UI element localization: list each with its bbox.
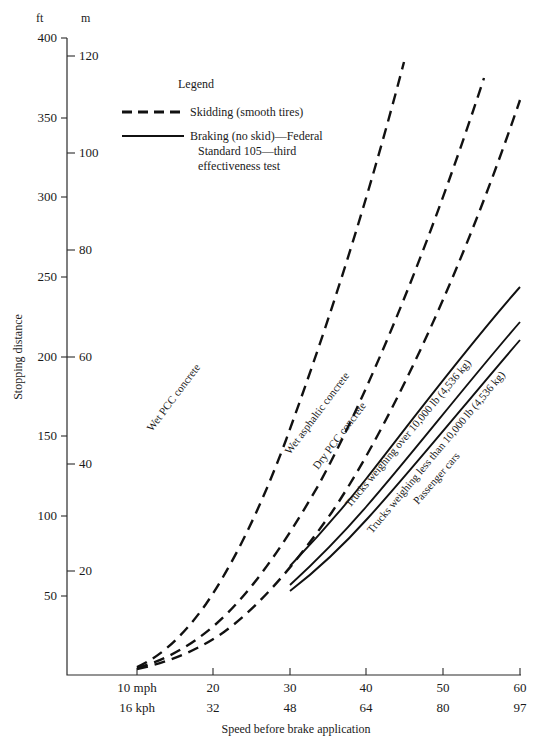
x-tick-mph-20: 20 — [207, 680, 220, 695]
curve-label-wet-pcc-concrete: Wet PCC concrete — [144, 361, 202, 433]
y-tick-m-60: 60 — [79, 349, 92, 364]
legend-label-braking-1: Braking (no skid)—Federal — [190, 129, 323, 143]
x-tick-kph-97: 97 — [514, 700, 528, 715]
x-tick-kph-32: 32 — [207, 700, 220, 715]
y-tick-m-40: 40 — [79, 456, 92, 471]
legend-title: Legend — [178, 77, 214, 91]
x-tick-kph-16: 16 kph — [119, 700, 155, 715]
y-tick-ft-50: 50 — [44, 588, 57, 603]
x-tick-mph-50: 50 — [437, 680, 450, 695]
y-ticks-ft: 400 350 300 250 200 150 100 50 — [38, 30, 68, 603]
y-tick-ft-100: 100 — [38, 508, 58, 523]
legend-label-braking-3: effectiveness test — [198, 159, 281, 173]
x-tick-mph-40: 40 — [360, 680, 373, 695]
y-axis-unit-ft: ft — [36, 11, 44, 25]
y-tick-ft-400: 400 — [38, 30, 58, 45]
y-tick-ft-300: 300 — [38, 189, 58, 204]
x-tick-mph-10: 10 mph — [117, 680, 157, 695]
x-tick-kph-80: 80 — [437, 700, 450, 715]
x-ticks — [137, 668, 520, 675]
legend: Legend Skidding (smooth tires) Braking (… — [122, 77, 323, 173]
y-axis-unit-m: m — [81, 11, 91, 25]
y-tick-m-120: 120 — [79, 48, 99, 63]
chart-figure: ft m 400 350 300 250 200 150 100 50 120 … — [0, 0, 544, 739]
y-tick-m-80: 80 — [79, 242, 92, 257]
x-tick-kph-64: 64 — [360, 700, 374, 715]
y-tick-ft-150: 150 — [38, 428, 58, 443]
curve-dry-pcc-concrete — [137, 100, 520, 669]
legend-label-braking-2: Standard 105—third — [198, 144, 296, 158]
x-axis-title: Speed before brake application — [222, 722, 371, 736]
chart-svg: ft m 400 350 300 250 200 150 100 50 120 … — [0, 0, 544, 739]
x-tick-kph-48: 48 — [284, 700, 297, 715]
legend-label-skidding: Skidding (smooth tires) — [190, 105, 303, 119]
y-tick-m-100: 100 — [79, 145, 99, 160]
y-tick-ft-200: 200 — [38, 349, 58, 364]
curve-labels: Wet PCC concrete Wet asphaltic concrete … — [144, 357, 508, 536]
y-tick-ft-350: 350 — [38, 110, 58, 125]
curve-passenger-cars — [290, 340, 520, 591]
x-tick-mph-30: 30 — [284, 680, 297, 695]
y-tick-ft-250: 250 — [38, 269, 58, 284]
x-tick-labels-mph: 10 mph 20 30 40 50 60 — [117, 680, 526, 695]
y-tick-m-20: 20 — [79, 563, 92, 578]
x-tick-mph-60: 60 — [514, 680, 527, 695]
y-ticks-m: 120 100 80 60 40 20 — [67, 48, 99, 578]
y-axis-title: Stopping distance — [11, 314, 25, 400]
x-tick-labels-kph: 16 kph 32 48 64 80 97 — [119, 700, 527, 715]
